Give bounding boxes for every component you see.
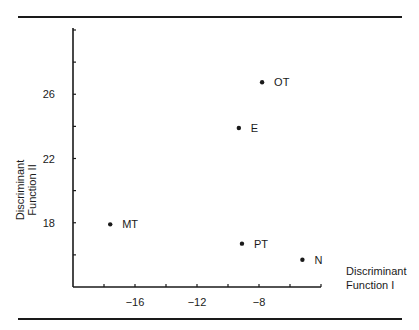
point-label-n: N — [314, 254, 322, 266]
data-points: OTEMTPTN — [108, 76, 322, 265]
data-point-n — [300, 257, 304, 261]
point-label-e: E — [251, 122, 258, 134]
scatter-chart: 182226−16−12−8 OTEMTPTN DiscriminantFunc… — [0, 0, 419, 330]
x-tick-label: −8 — [253, 296, 266, 308]
data-point-e — [237, 126, 241, 130]
y-axis-label: DiscriminantFunction II — [14, 160, 38, 221]
data-point-ot — [260, 80, 264, 84]
point-label-pt: PT — [254, 238, 268, 250]
point-label-mt: MT — [122, 218, 138, 230]
y-tick-label: 26 — [43, 88, 55, 100]
x-tick-label: −12 — [188, 296, 207, 308]
axes: 182226−16−12−8 — [43, 28, 321, 308]
x-axis-label: Discriminant — [346, 265, 407, 277]
x-axis-label: Function I — [346, 279, 394, 291]
y-tick-label: 22 — [43, 153, 55, 165]
y-axis-label-line: Discriminant — [14, 160, 26, 221]
data-point-mt — [108, 222, 112, 226]
data-point-pt — [240, 241, 244, 245]
y-tick-label: 18 — [43, 217, 55, 229]
y-axis-label-line: Function II — [26, 164, 38, 215]
point-label-ot: OT — [274, 76, 290, 88]
x-tick-label: −16 — [126, 296, 145, 308]
